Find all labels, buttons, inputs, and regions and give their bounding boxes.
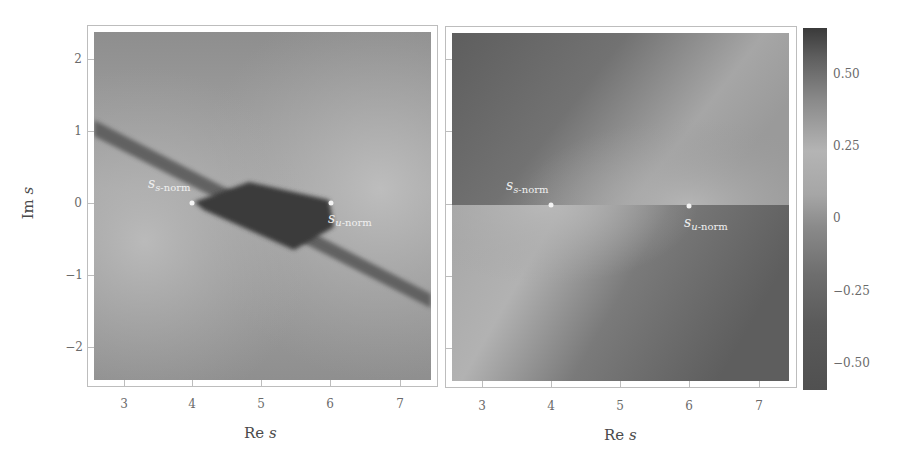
left-xtick-label: 5: [257, 397, 265, 411]
right-xtick-label: 5: [616, 399, 624, 413]
left-xtick-5: [261, 380, 262, 386]
left-ytick-label: −2: [65, 340, 83, 354]
sub-norm: -norm: [518, 184, 548, 195]
left-xaxis-title: Re s: [244, 424, 277, 442]
left-ytick-label: −1: [65, 268, 83, 282]
right-point-u-norm: [687, 204, 692, 209]
left-ytick-label: 0: [74, 196, 82, 210]
left-ytick-m2: [88, 347, 94, 348]
left-xtick-6: [330, 380, 331, 386]
re-text: Re: [604, 426, 624, 444]
right-xtick-4: [551, 381, 552, 387]
right-heatmap-graphic: [452, 33, 789, 381]
left-point-u-norm: [329, 201, 334, 206]
s-var: s: [629, 426, 637, 444]
left-xtick-label: 3: [120, 397, 128, 411]
right-xtick-3: [482, 381, 483, 387]
sub-norm: -norm: [160, 182, 190, 193]
right-ytick-1: [446, 131, 452, 132]
left-yaxis-title: Im s: [19, 187, 37, 220]
left-label-s-norm: ss-norm: [148, 175, 190, 193]
left-xtick-4: [192, 380, 193, 386]
right-xtick-5: [620, 381, 621, 387]
s-var: s: [19, 187, 37, 195]
right-xtick-label: 3: [478, 399, 486, 413]
right-ytick-2: [446, 59, 452, 60]
right-xtick-label: 7: [755, 399, 763, 413]
left-xtick-label: 4: [188, 397, 196, 411]
s-var: s: [269, 424, 277, 442]
left-ytick-m1: [88, 275, 94, 276]
left-label-u-norm: su-norm: [328, 210, 372, 228]
right-xtick-label: 4: [547, 399, 555, 413]
right-ytick-m2: [446, 348, 452, 349]
left-ytick-label: 1: [74, 124, 82, 138]
right-xaxis-title: Re s: [604, 426, 637, 444]
colorbar-tick-label: 0.25: [833, 139, 860, 153]
right-label-s-norm: ss-norm: [506, 177, 548, 195]
right-heatmap: [452, 33, 789, 381]
right-xtick-6: [689, 381, 690, 387]
left-xtick-label: 6: [326, 397, 334, 411]
colorbar: [803, 28, 827, 390]
im-text: Im: [19, 199, 37, 219]
right-point-s-norm: [549, 203, 554, 208]
subscript: s-norm: [513, 184, 548, 195]
left-ytick-label: 2: [74, 52, 82, 66]
colorbar-tick-label: −0.50: [833, 356, 870, 370]
colorbar-tick-label: 0: [833, 211, 841, 225]
subscript: u-norm: [335, 217, 372, 228]
sub-norm: -norm: [342, 217, 372, 228]
left-xtick-7: [400, 380, 401, 386]
left-point-s-norm: [190, 201, 195, 206]
right-xtick-7: [759, 381, 760, 387]
right-xtick-label: 6: [685, 399, 693, 413]
colorbar-tick-label: −0.25: [833, 284, 870, 298]
left-ytick-2: [88, 59, 94, 60]
left-ytick-1: [88, 131, 94, 132]
left-heatmap: [94, 32, 431, 380]
colorbar-tick-label: 0.50: [833, 67, 860, 81]
left-heatmap-graphic: [94, 32, 431, 380]
left-xtick-label: 7: [396, 397, 404, 411]
left-xtick-3: [124, 380, 125, 386]
subscript: u-norm: [691, 221, 728, 232]
right-label-u-norm: su-norm: [684, 214, 728, 232]
right-ytick-m1: [446, 276, 452, 277]
left-ytick-0: [88, 203, 94, 204]
right-ytick-0: [446, 204, 452, 205]
sub-norm: -norm: [698, 221, 728, 232]
subscript: s-norm: [155, 182, 190, 193]
re-text: Re: [244, 424, 264, 442]
